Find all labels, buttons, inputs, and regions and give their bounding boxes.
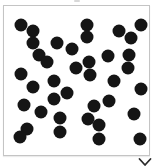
dot: [61, 87, 74, 100]
dot: [82, 113, 95, 126]
dot: [122, 62, 135, 75]
dot: [88, 100, 101, 113]
dot: [51, 37, 64, 50]
dot: [81, 19, 94, 32]
dot: [18, 99, 31, 112]
dot: [135, 19, 148, 32]
dot: [135, 83, 148, 96]
dot: [128, 108, 141, 121]
dot: [108, 75, 121, 88]
dot: [81, 31, 94, 44]
dot: [48, 93, 61, 106]
dot-pattern-image: [4, 6, 149, 155]
dot: [15, 19, 28, 32]
chevron-down-icon[interactable]: [138, 157, 152, 167]
dot: [70, 62, 83, 75]
dot: [123, 49, 136, 62]
image-tile-widget: [0, 0, 153, 168]
dot: [48, 75, 61, 88]
dot: [84, 69, 97, 82]
dot: [27, 37, 40, 50]
dot: [125, 32, 138, 45]
dot: [83, 56, 96, 69]
dot: [66, 43, 79, 56]
dot: [93, 133, 106, 146]
dot: [134, 133, 147, 146]
dot: [54, 112, 67, 125]
dot: [15, 68, 28, 81]
dot: [27, 81, 40, 94]
dot: [113, 25, 126, 38]
dot: [102, 50, 115, 63]
dot: [103, 95, 116, 108]
dot: [14, 131, 27, 144]
dot: [54, 126, 67, 139]
top-handle: [74, 0, 80, 2]
dot: [41, 56, 54, 69]
image-tile[interactable]: [3, 5, 150, 156]
dot: [93, 119, 106, 132]
dot: [35, 106, 48, 119]
dot: [27, 25, 40, 38]
